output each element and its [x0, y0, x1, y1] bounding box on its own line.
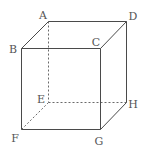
cube-drawing: [0, 0, 146, 152]
vertex-label-d: D: [129, 11, 138, 22]
vertex-label-a: A: [39, 10, 47, 21]
vertex-label-g: G: [95, 136, 104, 147]
edge-gh: [101, 103, 127, 130]
edge-cd: [101, 22, 127, 49]
edge-ab: [22, 22, 49, 49]
vertex-label-h: H: [128, 99, 138, 110]
vertex-label-f: F: [11, 133, 19, 144]
cube-diagram: A B C D E F G H: [0, 0, 146, 152]
vertex-label-c: C: [92, 37, 100, 48]
vertex-label-b: B: [9, 44, 17, 55]
vertex-label-e: E: [37, 94, 45, 105]
hidden-edge-ef: [22, 103, 49, 130]
